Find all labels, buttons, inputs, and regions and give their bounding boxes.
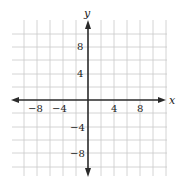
y-tick-label: 4 <box>77 68 83 79</box>
x-tick-label: 8 <box>137 103 143 114</box>
y-axis-down-arrow-icon <box>85 168 91 177</box>
y-tick-label: −8 <box>70 148 85 159</box>
y-axis <box>85 20 91 177</box>
x-axis-label: x <box>169 94 176 107</box>
x-tick-label: −4 <box>52 103 67 114</box>
y-axis-up-arrow-icon <box>85 20 91 29</box>
y-axis-label: y <box>83 7 91 20</box>
y-tick-label: 8 <box>77 41 83 52</box>
x-axis-right-arrow-icon <box>158 97 166 103</box>
x-tick-label: 4 <box>111 103 117 114</box>
x-axis-left-arrow-icon <box>11 97 19 103</box>
y-tick-label: −4 <box>70 122 85 133</box>
grid-lines <box>12 20 167 176</box>
x-tick-label: −8 <box>28 103 43 114</box>
coordinate-plane: y x −8 −4 4 8 8 4 −4 −8 <box>0 0 181 182</box>
